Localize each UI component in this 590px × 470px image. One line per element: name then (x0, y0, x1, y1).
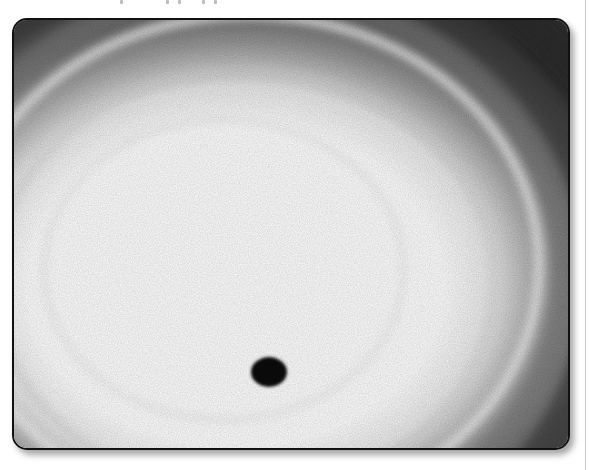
page-margin-rule (585, 0, 586, 470)
figure-frame (12, 18, 570, 450)
cut-off-text-fragment (118, 0, 238, 6)
shadow-spot (251, 357, 287, 387)
vortex-image (14, 20, 568, 448)
